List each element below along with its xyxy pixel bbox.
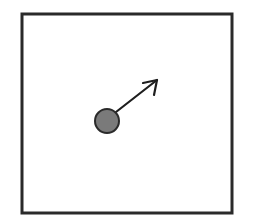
particle [95,109,119,133]
particle-in-box-diagram [0,0,254,221]
velocity-arrow-shaft [116,80,157,112]
box-boundary [22,14,232,213]
